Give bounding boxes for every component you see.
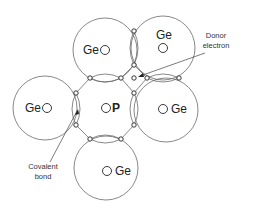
- donor-electron-label-line1: Donor: [206, 31, 227, 40]
- electron-icon: [119, 137, 123, 141]
- ge-right-shell: [134, 78, 198, 142]
- bond-link: [121, 78, 134, 93]
- bond-link: [76, 78, 90, 93]
- ge-top-left-label: Ge: [83, 43, 99, 57]
- donor-leader-line: [140, 53, 205, 76]
- electron-icon: [88, 76, 92, 80]
- atom-labels: Ge Ge Ge Ge Ge P: [25, 28, 187, 178]
- p-nucleus-icon: [102, 104, 111, 113]
- ge-top-left-nucleus-icon: [101, 46, 110, 55]
- electron-icon: [132, 63, 136, 67]
- bond-link: [121, 125, 134, 139]
- ge-right-nucleus-icon: [159, 105, 168, 114]
- ge-left-nucleus-icon: [43, 104, 52, 113]
- electron-icon: [74, 91, 78, 95]
- electron-icon: [132, 123, 136, 127]
- ge-bottom-nucleus-icon: [103, 167, 112, 176]
- ge-left-shell: [13, 76, 77, 140]
- electron-icon: [177, 76, 181, 80]
- donor-arrowhead-icon: [138, 73, 144, 77]
- ge-top-right-shell: [131, 16, 195, 80]
- donor-electron-icon: [132, 76, 136, 80]
- ge-right-label: Ge: [171, 102, 187, 116]
- covalent-bond-label-line1: Covalent: [28, 162, 59, 171]
- electron-icon: [119, 76, 123, 80]
- electron-icon: [74, 123, 78, 127]
- bond-link: [76, 125, 90, 139]
- bond-left-vertical: [72, 93, 80, 125]
- phosphorus-donor-lattice-diagram: Ge Ge Ge Ge Ge P Donor electron Covalent…: [0, 0, 254, 205]
- electron-icon: [88, 137, 92, 141]
- covalent-bond-label-line2: bond: [35, 172, 52, 181]
- electron-icon: [145, 76, 149, 80]
- annotations: Donor electron Covalent bond: [28, 31, 229, 181]
- bond-top-horizontal: [90, 74, 121, 82]
- covalent-leader-line: [50, 111, 77, 162]
- ge-top-right-nucleus-icon: [159, 44, 168, 53]
- p-label: P: [112, 101, 120, 115]
- electron-icon: [132, 91, 136, 95]
- bond-link: [121, 65, 134, 78]
- donor-electron-label-line2: electron: [203, 41, 230, 50]
- ge-top-right-label: Ge: [156, 28, 172, 42]
- ge-left-label: Ge: [25, 101, 41, 115]
- nuclei: [43, 44, 168, 176]
- electron-icon: [132, 29, 136, 33]
- ge-bottom-label: Ge: [115, 164, 131, 178]
